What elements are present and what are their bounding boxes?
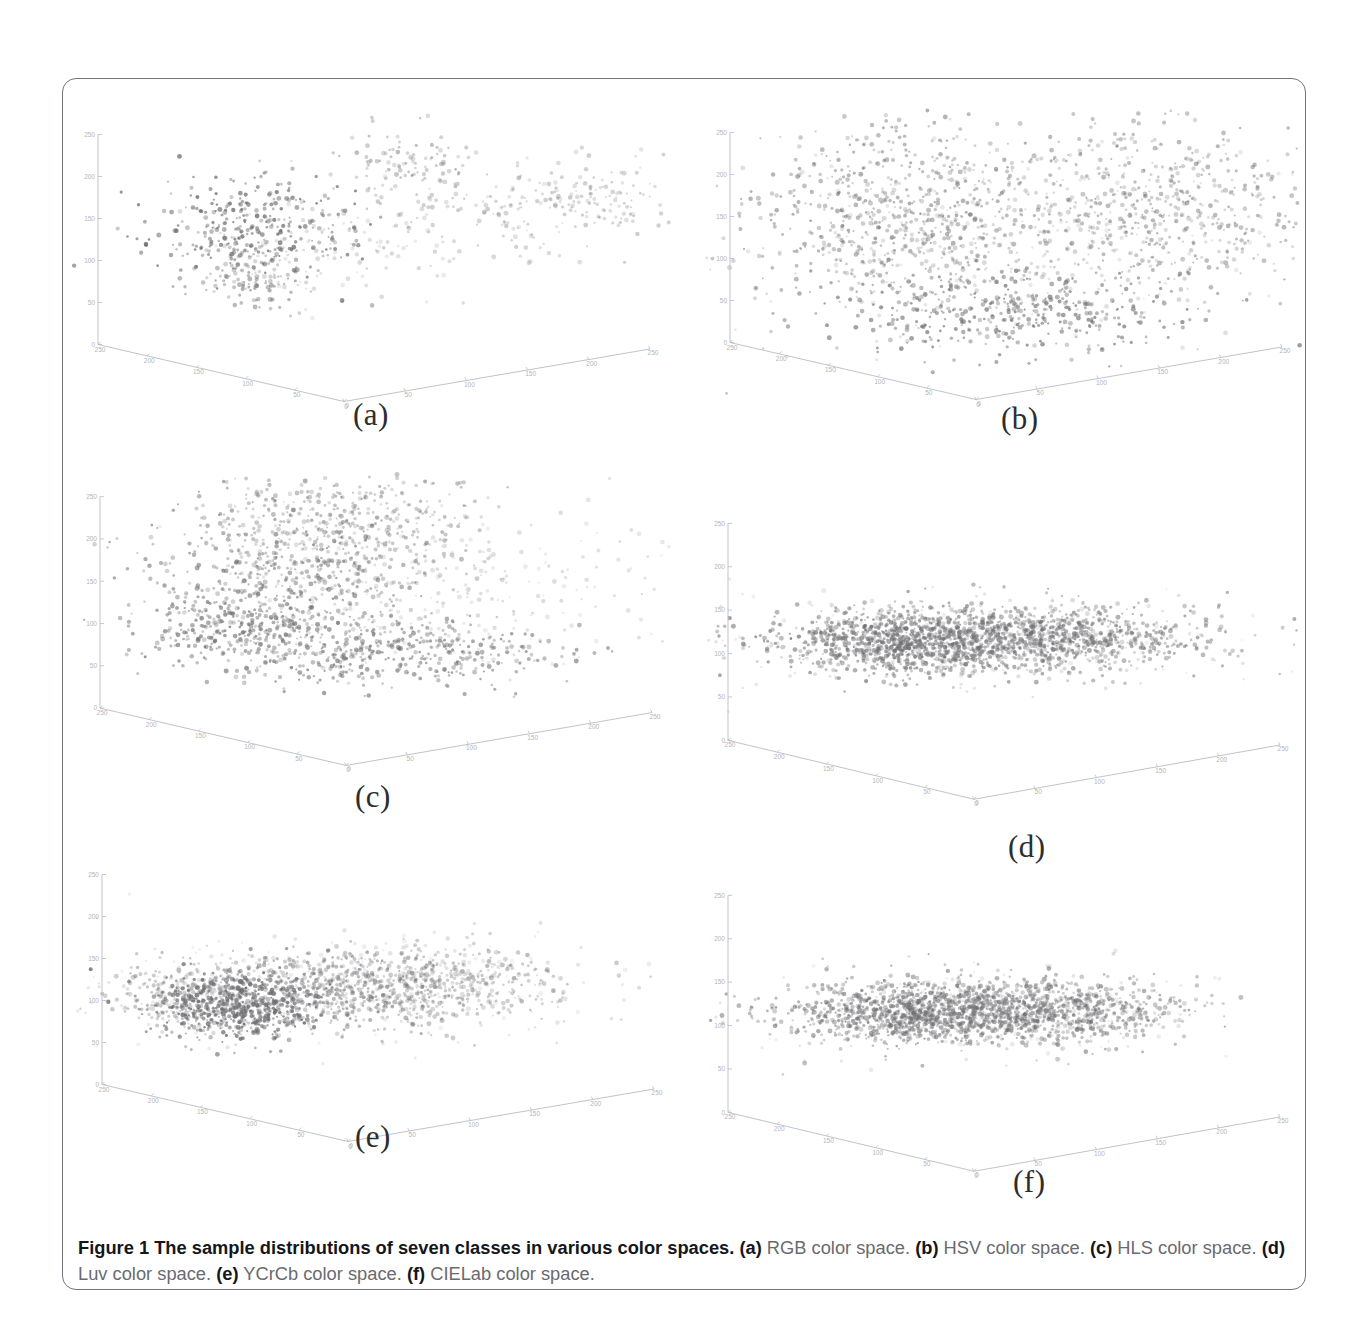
svg-text:200: 200 (586, 360, 597, 367)
svg-text:50: 50 (295, 755, 303, 762)
caption-text-d: Luv color space. (78, 1263, 216, 1284)
caption-key-e: (e) (216, 1263, 238, 1284)
svg-text:200: 200 (1218, 358, 1229, 365)
svg-text:250: 250 (650, 713, 661, 720)
subplot-c: 0501001502002502502001501005000501001502… (73, 471, 673, 773)
svg-text:100: 100 (242, 380, 253, 387)
svg-text:250: 250 (99, 1086, 110, 1093)
svg-text:50: 50 (297, 1131, 305, 1138)
svg-text:200: 200 (774, 753, 785, 760)
svg-text:150: 150 (197, 1108, 208, 1115)
svg-text:250: 250 (86, 493, 97, 500)
svg-text:0: 0 (349, 1142, 353, 1149)
svg-text:100: 100 (714, 1022, 725, 1029)
caption-text-b: HSV color space. (939, 1237, 1090, 1258)
svg-text:0: 0 (977, 400, 981, 407)
caption-key-c: (c) (1090, 1237, 1112, 1258)
svg-text:150: 150 (527, 734, 538, 741)
svg-text:150: 150 (1155, 767, 1166, 774)
svg-text:150: 150 (716, 213, 727, 220)
figure-frame: 0501001502002502502001501005000501001502… (62, 78, 1306, 1290)
subplot-e: 0501001502002502502001501005000501001502… (75, 849, 675, 1149)
svg-text:200: 200 (86, 535, 97, 542)
plot-area-c: 0501001502002502502001501005000501001502… (73, 471, 673, 773)
svg-text:200: 200 (84, 173, 95, 180)
svg-text:200: 200 (590, 1100, 601, 1107)
caption-title: Figure 1 The sample distributions of sev… (78, 1237, 734, 1258)
svg-text:150: 150 (525, 370, 536, 377)
svg-text:200: 200 (1216, 1128, 1227, 1135)
svg-text:200: 200 (146, 721, 157, 728)
svg-text:150: 150 (1157, 368, 1168, 375)
svg-text:200: 200 (148, 1097, 159, 1104)
svg-text:100: 100 (716, 255, 727, 262)
svg-text:100: 100 (874, 378, 885, 385)
svg-text:50: 50 (720, 297, 728, 304)
svg-text:50: 50 (405, 391, 413, 398)
svg-text:250: 250 (1278, 745, 1289, 752)
panel-label-d: (d) (1008, 829, 1046, 865)
caption-text-c: HLS color space. (1112, 1237, 1261, 1258)
svg-text:50: 50 (90, 662, 98, 669)
svg-text:100: 100 (468, 1121, 479, 1128)
svg-text:0: 0 (347, 765, 351, 772)
svg-text:250: 250 (725, 1113, 736, 1120)
svg-text:100: 100 (246, 1120, 257, 1127)
svg-text:100: 100 (466, 744, 477, 751)
svg-text:150: 150 (714, 606, 725, 613)
svg-text:250: 250 (648, 349, 659, 356)
svg-text:100: 100 (84, 257, 95, 264)
subplot-d: 0501001502002502502001501005000501001502… (701, 497, 1301, 807)
subplot-f: 0501001502002502502001501005000501001502… (701, 869, 1301, 1179)
caption-key-b: (b) (915, 1237, 938, 1258)
panel-label-a: (a) (353, 397, 389, 433)
panel-label-e: (e) (355, 1119, 391, 1155)
svg-text:50: 50 (293, 391, 301, 398)
svg-text:150: 150 (195, 732, 206, 739)
caption-key-f: (f) (407, 1263, 425, 1284)
svg-text:50: 50 (718, 1065, 726, 1072)
svg-text:250: 250 (84, 131, 95, 138)
svg-text:100: 100 (1094, 1150, 1105, 1157)
svg-text:50: 50 (925, 389, 933, 396)
svg-text:200: 200 (1216, 756, 1227, 763)
svg-text:150: 150 (714, 978, 725, 985)
svg-text:100: 100 (86, 620, 97, 627)
panel-label-b: (b) (1001, 401, 1039, 437)
svg-text:200: 200 (774, 1125, 785, 1132)
svg-text:100: 100 (1094, 778, 1105, 785)
subplot-a: 0501001502002502502001501005000501001502… (71, 109, 671, 409)
svg-text:50: 50 (1037, 389, 1045, 396)
svg-text:250: 250 (97, 709, 108, 716)
caption-key-d: (d) (1262, 1237, 1285, 1258)
plot-area-b: 0501001502002502502001501005000501001502… (703, 107, 1303, 407)
svg-text:150: 150 (823, 765, 834, 772)
svg-text:250: 250 (716, 129, 727, 136)
svg-text:50: 50 (407, 755, 415, 762)
svg-text:200: 200 (776, 355, 787, 362)
svg-text:250: 250 (95, 346, 106, 353)
svg-text:50: 50 (92, 1039, 100, 1046)
svg-text:50: 50 (923, 1160, 931, 1167)
svg-text:0: 0 (345, 402, 349, 409)
svg-text:50: 50 (88, 299, 96, 306)
svg-text:100: 100 (872, 777, 883, 784)
svg-text:50: 50 (718, 693, 726, 700)
svg-text:0: 0 (975, 799, 979, 806)
svg-text:250: 250 (1278, 1117, 1289, 1124)
svg-text:250: 250 (727, 344, 738, 351)
svg-text:150: 150 (88, 955, 99, 962)
caption-text-a: RGB color space. (762, 1237, 915, 1258)
svg-text:100: 100 (464, 381, 475, 388)
caption-text-f: CIELab color space. (425, 1263, 595, 1284)
plot-area-e: 0501001502002502502001501005000501001502… (75, 849, 675, 1149)
svg-text:100: 100 (1096, 379, 1107, 386)
svg-text:250: 250 (652, 1089, 663, 1096)
panel-label-c: (c) (355, 779, 391, 815)
svg-text:200: 200 (88, 913, 99, 920)
svg-text:50: 50 (923, 788, 931, 795)
caption-text-e: YCrCb color space. (239, 1263, 407, 1284)
svg-text:150: 150 (529, 1110, 540, 1117)
caption-key-a: (a) (734, 1237, 761, 1258)
svg-text:250: 250 (1280, 347, 1291, 354)
